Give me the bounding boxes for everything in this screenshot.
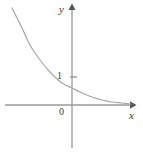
y-axis-arrow-icon xyxy=(69,4,76,11)
y-axis-label: y xyxy=(59,4,64,15)
graph-canvas xyxy=(0,0,143,155)
origin-label: 0 xyxy=(59,107,64,117)
graph-figure: y x 0 1 xyxy=(0,0,143,155)
x-axis-arrow-icon xyxy=(130,101,137,108)
x-axis-label: x xyxy=(129,110,134,121)
y-tick-label-one: 1 xyxy=(57,71,62,81)
